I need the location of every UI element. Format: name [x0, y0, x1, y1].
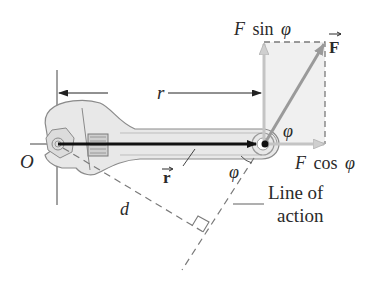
- moment-arm-d: [63, 148, 205, 233]
- force-vector-label: F: [329, 32, 341, 57]
- f-cos-phi-label: F cos φ: [294, 153, 355, 173]
- r-vector-label: r: [162, 167, 173, 187]
- r-distance-label: r: [157, 82, 165, 103]
- line-of-action: [182, 158, 254, 270]
- origin-label: O: [20, 151, 34, 172]
- right-angle-marker: [192, 216, 209, 232]
- phi-lower-label: φ: [229, 162, 239, 182]
- f-sin-phi-label: F sin φ: [233, 19, 291, 39]
- svg-text:F: F: [329, 38, 339, 57]
- pivot-dot: [262, 141, 269, 148]
- r-dimension: r: [59, 82, 261, 103]
- line-of-action-label-2: action: [277, 205, 324, 226]
- phi-upper-label: φ: [283, 121, 293, 141]
- line-of-action-label-1: Line of: [268, 182, 324, 203]
- moment-arm-label: d: [120, 199, 130, 219]
- wrench: [45, 100, 279, 174]
- torque-diagram: r O r F F sin φ F cos φ φ φ d Line of: [0, 0, 371, 289]
